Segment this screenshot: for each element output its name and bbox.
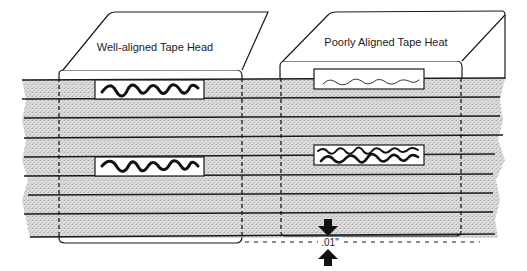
head-gap-upper: [95, 80, 204, 99]
arrow-up-icon: [318, 249, 338, 266]
tape-head-alignment-diagram: Well-aligned Tape Head Poorly Aligned Ta…: [0, 0, 527, 271]
head-gap-upper-misaligned: [314, 69, 424, 89]
head-gap-lower: [95, 157, 204, 176]
head-gap-lower-crosstalk: [314, 145, 424, 165]
offset-label: .01": [321, 237, 339, 248]
poorly-aligned-head-label: Poorly Aligned Tape Heat: [324, 36, 447, 48]
well-aligned-head-label: Well-aligned Tape Head: [97, 41, 213, 53]
